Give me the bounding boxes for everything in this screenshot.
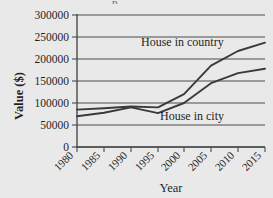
- y-tick-label-200000: 200000: [35, 53, 70, 65]
- y-tick-label-300000: 300000: [35, 9, 70, 21]
- y-tick-labels: 0 50000 100000 150000 200000 250000 3000…: [35, 9, 70, 153]
- x-tick-labels: 1980 1985 1990 1995 2000 2005 2010 2015: [51, 149, 263, 173]
- series-annotation-house-in-country: House in country: [141, 35, 224, 49]
- y-tick-label-150000: 150000: [35, 75, 70, 87]
- x-tick-label-2015: 2015: [239, 149, 263, 173]
- x-tick-label-2005: 2005: [185, 149, 209, 173]
- series-line-house-in-country: [77, 43, 265, 110]
- x-tick-label-1985: 1985: [78, 149, 102, 173]
- x-tick-label-1980: 1980: [51, 149, 75, 173]
- x-tick-label-1990: 1990: [105, 149, 129, 173]
- y-tick-label-100000: 100000: [35, 97, 70, 109]
- x-tick-label-1995: 1995: [132, 149, 156, 173]
- y-tick-label-250000: 250000: [35, 31, 70, 43]
- chart-plot-area: 0 50000 100000 150000 200000 250000 3000…: [0, 0, 273, 198]
- y-tick-marks: [72, 15, 77, 147]
- line-chart: p: [0, 0, 273, 198]
- y-tick-label-50000: 50000: [40, 119, 69, 131]
- x-tick-label-2000: 2000: [158, 149, 182, 173]
- x-tick-label-2010: 2010: [212, 149, 236, 173]
- x-axis-label: Year: [159, 181, 183, 195]
- series-annotation-house-in-city: House in city: [160, 109, 224, 123]
- y-axis-label: Value ($): [12, 72, 26, 120]
